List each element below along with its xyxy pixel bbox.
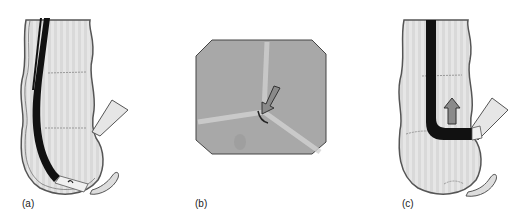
panel-label-c: (c) xyxy=(402,198,414,209)
side-branch xyxy=(92,100,128,136)
panel-label-a: (a) xyxy=(22,198,34,209)
panel-b: (b) xyxy=(170,0,340,224)
colon-diagram-a xyxy=(0,0,180,224)
colon-diagram-c xyxy=(340,0,520,224)
panel-label-b: (b) xyxy=(195,198,207,209)
endoscopic-view xyxy=(170,0,340,224)
panel-c: (c) xyxy=(340,0,520,224)
bowel-outline xyxy=(399,20,481,194)
panel-a: (a) xyxy=(0,0,180,224)
view-frame xyxy=(196,40,326,154)
